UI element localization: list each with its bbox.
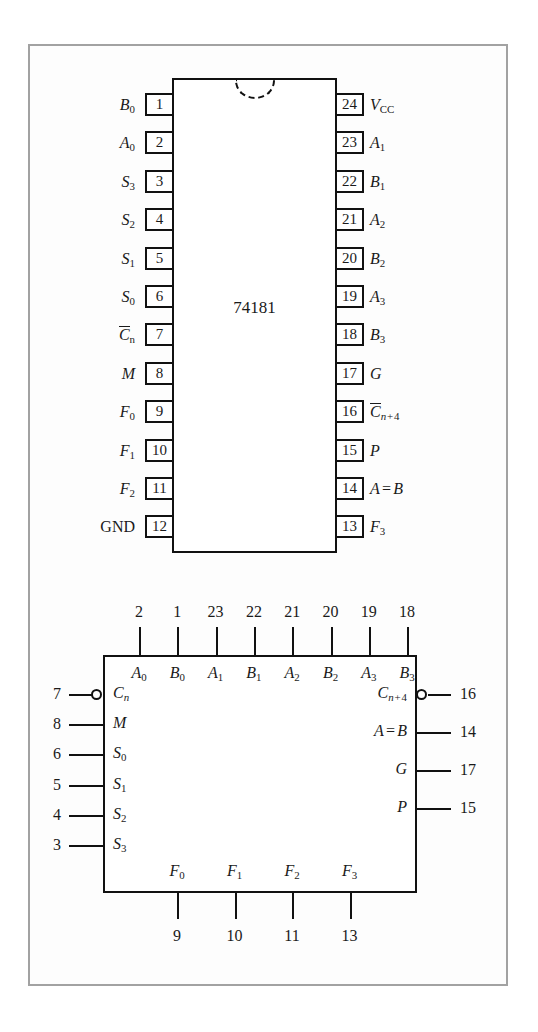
dip-pin-box-21: 21 [335,208,364,231]
dip-pin-box-13: 13 [335,515,364,538]
dip-pin-label-7: Cn [35,323,135,346]
dip-pin-label-8: M [35,362,135,385]
dip-pin-label-22: B1 [370,170,480,193]
dip-pin-box-10: 10 [145,439,174,462]
dip-pin-box-17: 17 [335,362,364,385]
logic-right-lead-14 [417,732,451,734]
logic-top-lead-22 [254,627,256,655]
logic-left-signal-8: M [113,713,173,733]
logic-bottom-lead-9 [177,891,179,919]
logic-bottom-lead-13 [350,891,352,919]
dip-pin-label-1: B0 [35,93,135,116]
logic-left-pin-number-7: 7 [21,685,61,703]
chip-part-number-label: 74181 [172,298,337,318]
dip-pin-box-6: 6 [145,285,174,308]
logic-top-lead-19 [369,627,371,655]
logic-top-pin-number-2: 2 [119,603,159,621]
dip-pin-box-14: 14 [335,477,364,500]
dip-pin-box-4: 4 [145,208,174,231]
dip-pin-box-22: 22 [335,170,364,193]
logic-right-lead-16 [428,694,451,696]
dip-pin-box-16: 16 [335,400,364,423]
dip-pin-label-16: Cn + 4 [370,400,480,423]
dip-pin-label-12: GND [35,515,135,538]
dip-pin-box-9: 9 [145,400,174,423]
logic-bottom-pin-number-13: 13 [330,927,370,945]
logic-top-pin-number-18: 18 [387,603,427,621]
logic-left-lead-6 [69,754,103,756]
dip-pin-label-11: F2 [35,477,135,500]
logic-left-pin-number-8: 8 [21,715,61,733]
logic-left-lead-8 [69,724,103,726]
dip-pin-label-10: F1 [35,439,135,462]
dip-pin-label-3: S3 [35,170,135,193]
logic-right-signal-16: Cn + 4 [321,683,407,707]
dip-pin-box-12: 12 [145,515,174,538]
logic-bottom-signal-9: F0 [155,861,199,885]
dip-pin-box-24: 24 [335,93,364,116]
logic-bottom-lead-10 [235,891,237,919]
dip-pin-label-13: F3 [370,515,480,538]
logic-right-pin-number-16: 16 [460,685,504,703]
logic-bottom-pin-number-10: 10 [215,927,255,945]
logic-right-signal-14: A = B [321,721,407,741]
dip-pin-label-9: F0 [35,400,135,423]
dip-pin-label-24: VCC [370,93,480,116]
logic-right-lead-17 [417,770,451,772]
logic-left-pin-number-6: 6 [21,745,61,763]
logic-left-signal-4: S2 [113,804,173,828]
logic-top-lead-18 [407,627,409,655]
logic-left-lead-3 [69,845,103,847]
logic-left-signal-6: S0 [113,743,173,767]
logic-top-lead-1 [177,627,179,655]
logic-right-pin-number-17: 17 [460,761,504,779]
logic-top-pin-number-1: 1 [157,603,197,621]
logic-top-pin-number-21: 21 [272,603,312,621]
logic-bottom-signal-13: F3 [328,861,372,885]
dip-pin-box-18: 18 [335,323,364,346]
dip-pin-label-15: P [370,439,480,462]
logic-bottom-signal-11: F2 [270,861,314,885]
dip-pin-label-17: G [370,362,480,385]
dip-pin-label-4: S2 [35,208,135,231]
logic-top-pin-number-19: 19 [349,603,389,621]
logic-top-pin-number-22: 22 [234,603,274,621]
logic-right-signal-17: G [321,759,407,779]
dip-pin-label-5: S1 [35,247,135,270]
logic-right-pin-number-15: 15 [460,799,504,817]
dip-pin-box-15: 15 [335,439,364,462]
dip-pin-label-23: A1 [370,131,480,154]
logic-left-lead-7 [69,694,92,696]
dip-pin-label-14: A = B [370,477,480,500]
dip-pin-label-18: B3 [370,323,480,346]
dip-pin-box-3: 3 [145,170,174,193]
logic-left-signal-7: Cn [113,683,173,707]
logic-bottom-pin-number-11: 11 [272,927,312,945]
logic-right-signal-15: P [321,797,407,817]
logic-bottom-signal-10: F1 [213,861,257,885]
dip-pin-box-11: 11 [145,477,174,500]
dip-pin-box-5: 5 [145,247,174,270]
logic-left-pin-number-3: 3 [21,836,61,854]
dip-pin-box-23: 23 [335,131,364,154]
logic-left-lead-4 [69,815,103,817]
logic-right-inversion-bubble-16 [416,689,427,700]
logic-left-pin-number-5: 5 [21,776,61,794]
dip-pin-label-21: A2 [370,208,480,231]
dip-pin-box-1: 1 [145,93,174,116]
logic-left-signal-3: S3 [113,834,173,858]
dip-pin-label-2: A0 [35,131,135,154]
dip-pin-box-2: 2 [145,131,174,154]
logic-bottom-lead-11 [292,891,294,919]
logic-top-lead-23 [216,627,218,655]
logic-left-lead-5 [69,785,103,787]
logic-top-lead-20 [331,627,333,655]
figure-stage: 74181 1B02A03S34S25S16S07Cn8M9F010F111F2… [0,0,538,1032]
dip-pin-box-20: 20 [335,247,364,270]
dip-pin-box-8: 8 [145,362,174,385]
dip-pin-label-20: B2 [370,247,480,270]
logic-right-lead-15 [417,808,451,810]
dip-pin-box-7: 7 [145,323,174,346]
logic-left-pin-number-4: 4 [21,806,61,824]
dip-pin-label-19: A3 [370,285,480,308]
